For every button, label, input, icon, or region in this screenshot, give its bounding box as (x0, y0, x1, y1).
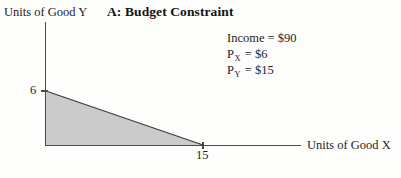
budget-constraint-figure: Units of Good Y A: Budget Constraint Inc… (0, 0, 401, 178)
x-axis-tick-label-15: 15 (196, 148, 209, 163)
x-axis-label: Units of Good X (307, 138, 391, 153)
y-axis-tick-label-6: 6 (30, 83, 36, 98)
